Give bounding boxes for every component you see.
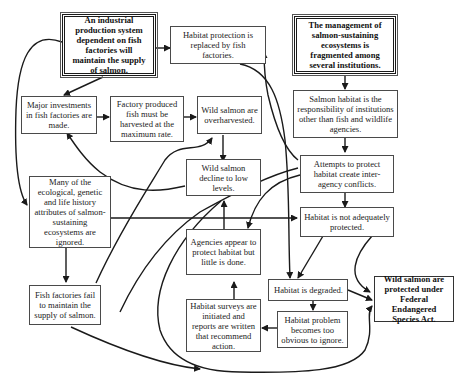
causal-diagram: An industrial production system dependen… xyxy=(0,0,468,379)
node-attempts-interagency-conflicts: Attempts to protect habitat create inter… xyxy=(300,155,394,193)
node-esa-protection: Wild salmon are protected under Federal … xyxy=(374,276,454,322)
node-habitat-problem-obvious: Habitat problem becomes too obvious to i… xyxy=(277,311,348,348)
node-agencies-appear: Agencies appear to protect habitat but l… xyxy=(186,229,261,275)
node-habitat-not-protected: Habitat is not adequately protected. xyxy=(300,207,394,237)
node-habitat-surveys: Habitat surveys are initiated and report… xyxy=(186,299,261,352)
node-wild-salmon-overharvested: Wild salmon are overharvested. xyxy=(197,96,262,134)
node-factory-fish-harvested: Factory produced fish must be harvested … xyxy=(110,96,184,142)
node-wild-salmon-decline: Wild salmon decline to low levels. xyxy=(186,159,261,196)
node-habitat-responsibility: Salmon habitat is the responsibility of … xyxy=(293,90,398,138)
node-habitat-protection-replaced: Habitat protection is replaced by fish f… xyxy=(170,26,266,64)
node-fish-factories-fail: Fish factories fail to maintain the supp… xyxy=(29,285,101,325)
node-major-investments: Major investments in fish factories are … xyxy=(21,96,97,134)
node-industrial-production-system: An industrial production system dependen… xyxy=(62,14,156,76)
node-management-fragmented: The management of salmon-sustaining ecos… xyxy=(294,16,396,74)
node-attributes-ignored: Many of the ecological, genetic and life… xyxy=(29,176,111,248)
node-habitat-degraded: Habitat is degraded. xyxy=(268,279,348,301)
